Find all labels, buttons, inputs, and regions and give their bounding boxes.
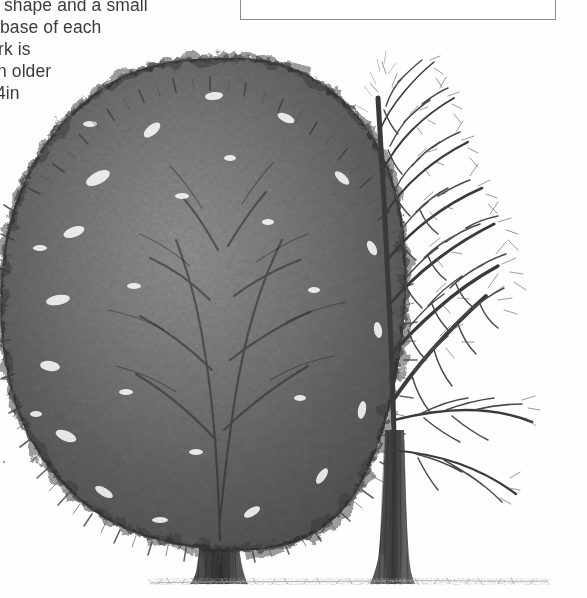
body-text-line-2: base of each (0, 16, 160, 38)
body-text-line-1: shape and a small (4, 0, 160, 16)
caption-box-text (241, 5, 555, 19)
body-text-line-3: rk is (0, 38, 160, 60)
tree-in-leaf (0, 40, 430, 584)
page-canvas: shape and a small base of each rk is n o… (0, 0, 587, 598)
body-text-column: shape and a small base of each rk is n o… (0, 0, 160, 104)
page-speck (3, 461, 5, 463)
body-text-line-4: n older (0, 60, 160, 82)
caption-box (240, 0, 556, 20)
ground-line (148, 578, 550, 585)
body-text-line-5: 4in (0, 82, 160, 104)
